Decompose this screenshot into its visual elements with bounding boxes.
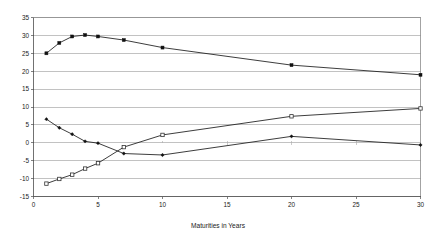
y-axis-tick-labels: -15-10-505101520253035: [20, 14, 30, 200]
data-point-series-3-x3: [71, 133, 74, 136]
data-point-series-3-x20: [290, 135, 293, 138]
x-tick-label-5: 5: [96, 201, 100, 208]
data-point-series-2-x1: [45, 182, 48, 185]
y-tick-label-10: 10: [22, 103, 30, 110]
data-point-series-1-x7: [122, 39, 125, 42]
data-point-series-2-x7: [122, 145, 125, 148]
data-point-series-1-x2: [58, 41, 61, 44]
data-point-series-2-x3: [71, 173, 74, 176]
y-tick-label-35: 35: [22, 14, 30, 21]
x-tick-label-30: 30: [417, 201, 425, 208]
chart-series-markers: [45, 34, 423, 186]
x-axis-tick-labels: 051015202530: [32, 201, 425, 208]
data-point-series-1-x1: [45, 52, 48, 55]
series-line-series-1: [46, 35, 420, 75]
y-tick-label-30: 30: [22, 32, 30, 39]
x-tick-label-20: 20: [288, 201, 296, 208]
data-point-series-3-x7: [122, 152, 125, 155]
data-point-series-1-x10: [161, 46, 164, 49]
y-tick-label-5: 5: [25, 121, 29, 128]
data-point-series-2-x4: [83, 167, 86, 170]
y-tick-label-0: 0: [25, 139, 29, 146]
x-tick-label-10: 10: [159, 201, 167, 208]
chart-container: -15-10-505101520253035 051015202530 Matu…: [0, 0, 437, 244]
data-point-series-1-x30: [419, 73, 422, 76]
y-tick-label-15: 15: [22, 85, 30, 92]
data-point-series-1-x4: [84, 34, 87, 37]
data-point-series-1-x3: [71, 35, 74, 38]
data-point-series-2-x10: [161, 133, 164, 136]
data-point-series-2-x30: [419, 107, 422, 110]
x-tick-label-0: 0: [32, 201, 36, 208]
data-point-series-3-x10: [161, 153, 164, 156]
y-tick-label--5: -5: [23, 157, 29, 164]
y-tick-label--15: -15: [20, 193, 30, 200]
y-tick-label-25: 25: [22, 50, 30, 57]
y-tick-label--10: -10: [20, 175, 30, 182]
data-point-series-2-x20: [290, 115, 293, 118]
chart-series-lines: [46, 35, 420, 184]
chart-axes: [31, 18, 421, 200]
y-tick-label-20: 20: [22, 68, 30, 75]
data-point-series-3-x5: [96, 141, 99, 144]
chart-gridlines: [34, 18, 421, 197]
data-point-series-2-x5: [96, 162, 99, 165]
x-axis-title: Maturities in Years: [191, 222, 246, 229]
data-point-series-2-x2: [58, 177, 61, 180]
line-chart: -15-10-505101520253035 051015202530 Matu…: [0, 0, 437, 244]
x-tick-label-15: 15: [223, 201, 231, 208]
data-point-series-1-x20: [290, 64, 293, 67]
data-point-series-1-x5: [97, 35, 100, 38]
x-tick-label-25: 25: [352, 201, 360, 208]
data-point-series-3-x30: [419, 143, 422, 146]
series-line-series-2: [46, 108, 420, 183]
